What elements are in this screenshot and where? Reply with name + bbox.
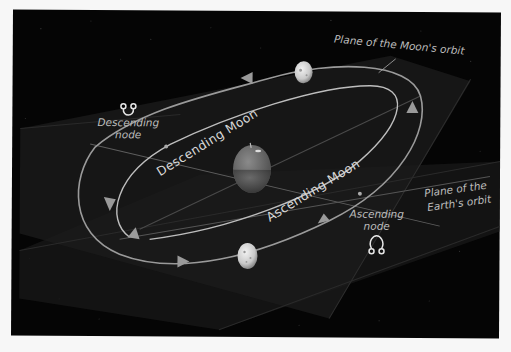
descending-node-point [164,144,168,148]
orbit-diagram: Descending Moon Ascending Moon Plane of … [11,10,501,339]
moon-lower [237,243,257,269]
ascending-node-point [358,192,362,196]
diagram-panel: Descending Moon Ascending Moon Plane of … [11,10,501,339]
moon-upper [295,61,313,83]
ascending-node-label-line1: Ascending [348,208,404,220]
ascending-node-label-line2: node [364,220,390,232]
descending-node-label-line1: Descending [97,116,159,128]
descending-node-label-line2: node [115,128,141,140]
moon-plane-label: Plane of the Moon's orbit [334,33,466,57]
